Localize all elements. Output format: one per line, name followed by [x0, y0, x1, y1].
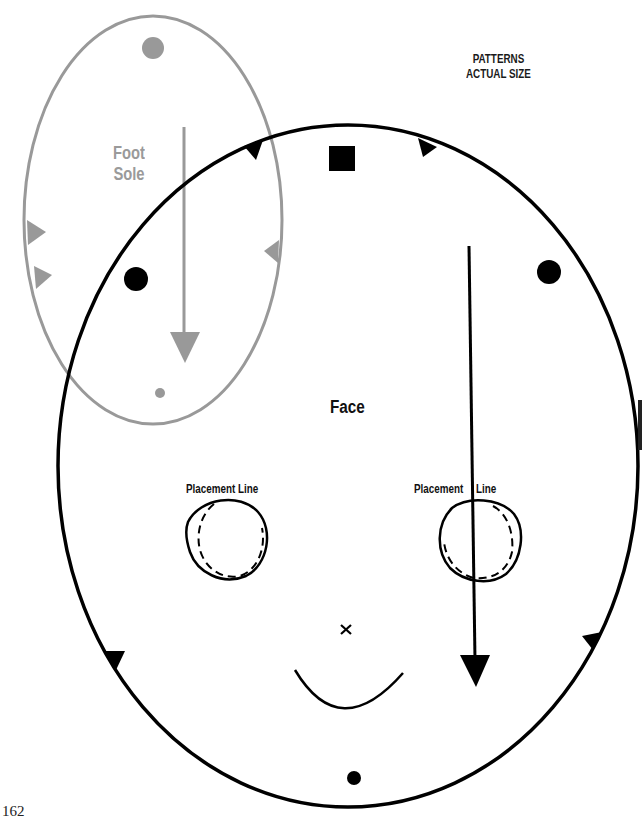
foot-sole-pattern: [24, 16, 282, 424]
face-dot-right-icon: [537, 260, 561, 284]
face-outline: [58, 125, 638, 807]
face-dot-bottom-icon: [347, 771, 361, 785]
face-square-marker-icon: [329, 146, 355, 171]
face-dot-left-icon: [124, 267, 148, 291]
face-grainline: [469, 246, 475, 660]
left-eye-placement: [186, 500, 267, 579]
face-pattern: [58, 125, 638, 807]
face-notch-icon: [244, 140, 263, 160]
nose-x-mark-icon: [341, 625, 351, 634]
left-placement-line-label: Placement Line: [186, 483, 258, 495]
foot-sole-bottom-dot-icon: [155, 388, 165, 398]
foot-sole-notch-icon: [27, 220, 46, 245]
face-arrowhead-icon: [460, 655, 490, 687]
face-label: Face: [330, 398, 365, 416]
pattern-artwork: [0, 0, 642, 823]
mouth-curve: [295, 670, 403, 708]
foot-sole-arrowhead-icon: [170, 332, 200, 363]
foot-sole-notch-icon: [264, 240, 279, 263]
scan-edge-artifact: [638, 400, 642, 450]
foot-sole-top-dot-icon: [142, 37, 164, 59]
foot-sole-label-line-2: Sole: [113, 164, 145, 185]
right-eye-placement: [440, 500, 521, 581]
foot-sole-notch-icon: [34, 266, 52, 289]
face-notch-icon: [582, 632, 602, 650]
foot-sole-outline: [24, 16, 282, 424]
foot-sole-label: Foot Sole: [113, 143, 145, 185]
right-placement-label-part-1: Placement: [414, 483, 463, 495]
heading-line-2: ACTUAL SIZE: [466, 67, 531, 82]
heading-line-1: PATTERNS: [466, 52, 531, 67]
right-placement-label-part-2: Line: [476, 483, 496, 495]
pattern-page: PATTERNS ACTUAL SIZE Foot Sole Face Plac…: [0, 0, 642, 823]
page-number: 162: [2, 804, 25, 819]
foot-sole-label-line-1: Foot: [113, 143, 145, 164]
page-heading: PATTERNS ACTUAL SIZE: [466, 52, 531, 82]
